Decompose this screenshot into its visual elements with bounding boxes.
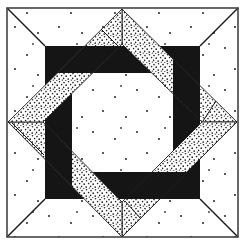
quilt-block-figure bbox=[0, 0, 246, 245]
